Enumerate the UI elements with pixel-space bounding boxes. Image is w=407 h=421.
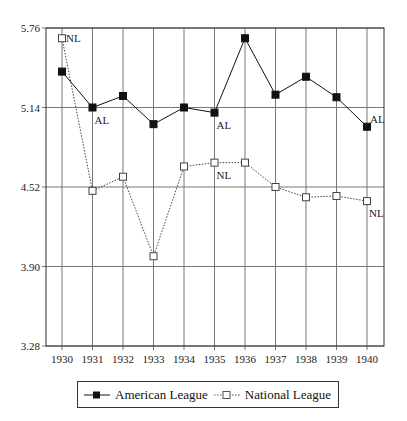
y-tick-label: 5.14 [21, 102, 41, 114]
filled-square-marker [211, 109, 218, 116]
hollow-square-marker [120, 173, 127, 180]
point-label: AL [95, 114, 110, 126]
point-labels: ALALALNLNLNL [66, 32, 385, 219]
point-label: NL [369, 207, 384, 219]
hollow-square-marker [89, 187, 96, 194]
filled-square-marker [120, 92, 127, 99]
hollow-square-marker [364, 198, 371, 205]
x-tick-label: 1940 [356, 353, 379, 365]
filled-square-marker [59, 68, 66, 75]
x-tick-label: 1934 [173, 353, 196, 365]
hollow-square-marker [272, 184, 279, 191]
y-tick-label: 5.76 [21, 22, 41, 34]
hollow-square-marker [181, 163, 188, 170]
y-tick-label: 3.28 [21, 340, 41, 352]
hollow-square-marker [59, 35, 66, 42]
x-tick-label: 1937 [265, 353, 288, 365]
filled-square-marker [242, 35, 249, 42]
filled-square-marker [181, 104, 188, 111]
hollow-square-marker [333, 192, 340, 199]
hollow-square-marker-icon [214, 390, 240, 400]
filled-square-marker [150, 121, 157, 128]
x-axis-ticks: 1930193119321933193419351936193719381939… [51, 353, 379, 365]
point-label: NL [217, 169, 232, 181]
y-axis-ticks: 5.765.144.523.903.28 [21, 22, 41, 352]
x-tick-label: 1935 [204, 353, 227, 365]
hollow-square-marker [211, 159, 218, 166]
legend-label: National League [245, 387, 331, 403]
x-tick-label: 1931 [82, 353, 104, 365]
x-tick-label: 1932 [112, 353, 134, 365]
legend: American League National League [77, 381, 339, 408]
y-tick-label: 3.90 [21, 261, 41, 273]
x-tick-label: 1930 [51, 353, 74, 365]
x-tick-label: 1933 [143, 353, 166, 365]
filled-square-marker [333, 94, 340, 101]
line-chart: 5.765.144.523.903.28 1930193119321933193… [0, 0, 407, 421]
filled-square-marker [89, 104, 96, 111]
filled-square-marker-icon [84, 390, 110, 400]
legend-item-national-league: National League [214, 387, 331, 403]
x-tick-label: 1939 [326, 353, 349, 365]
point-label: NL [66, 32, 81, 44]
x-tick-label: 1936 [234, 353, 257, 365]
x-tick-label: 1938 [295, 353, 318, 365]
filled-square-marker [303, 73, 310, 80]
hollow-square-marker [242, 159, 249, 166]
hollow-square-marker [303, 194, 310, 201]
filled-square-marker [272, 91, 279, 98]
hollow-square-marker [150, 253, 157, 260]
legend-label: American League [115, 387, 208, 403]
legend-item-american-league: American League [84, 387, 208, 403]
point-label: AL [217, 119, 232, 131]
y-tick-label: 4.52 [21, 181, 40, 193]
point-label: AL [370, 113, 385, 125]
